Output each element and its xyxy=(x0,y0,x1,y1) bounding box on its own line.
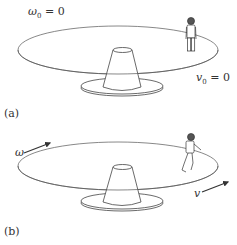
omega-arrow-icon xyxy=(24,143,50,153)
velocity-arrow-icon xyxy=(202,182,228,192)
v0-label: v0 = 0 xyxy=(196,71,230,86)
person-standing-icon xyxy=(186,18,196,52)
v-value: = 0 xyxy=(210,71,230,84)
omega-value: = 0 xyxy=(45,5,65,18)
v-subscript: 0 xyxy=(202,78,206,86)
omega-label: ω xyxy=(15,146,24,159)
v-label: v xyxy=(194,187,200,200)
omega-symbol: ω xyxy=(28,5,37,18)
panel-a xyxy=(18,18,218,97)
cone-top-b xyxy=(113,165,132,170)
cone-pedestal-b xyxy=(103,167,141,206)
omega0-label: ω0 = 0 xyxy=(28,5,65,20)
diagram-canvas xyxy=(0,0,237,245)
cone-pedestal-a xyxy=(103,50,141,91)
omega-subscript: 0 xyxy=(37,12,41,20)
panel-b-caption: (b) xyxy=(4,225,20,238)
panel-a-caption: (a) xyxy=(4,107,19,120)
cone-top-a xyxy=(113,48,132,53)
person-walking-icon xyxy=(182,134,201,173)
